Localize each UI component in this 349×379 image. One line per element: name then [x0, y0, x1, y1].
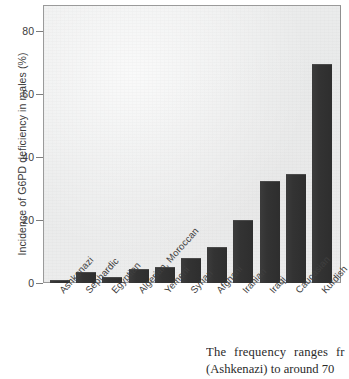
- y-axis-tick: [36, 94, 43, 95]
- y-axis-tick-label: 40: [22, 152, 34, 163]
- y-axis-tick-label: 0: [28, 278, 34, 289]
- y-axis-tick-label: 80: [22, 26, 34, 37]
- y-axis-tick: [36, 283, 43, 284]
- y-axis-tick-label: 20: [22, 215, 34, 226]
- bar-chart-figure: Incidence of G6PD deficiency in males (%…: [0, 0, 349, 379]
- y-axis-tick: [36, 31, 43, 32]
- y-axis-tick: [36, 220, 43, 221]
- caption-line-1: The frequency ranges fr: [206, 344, 349, 361]
- caption-text: The frequency ranges fr (Ashkenazi) to a…: [206, 344, 349, 379]
- y-axis-tick: [36, 157, 43, 158]
- y-axis-tick-label: 60: [22, 89, 34, 100]
- caption-line-2: (Ashkenazi) to around 70: [206, 361, 349, 378]
